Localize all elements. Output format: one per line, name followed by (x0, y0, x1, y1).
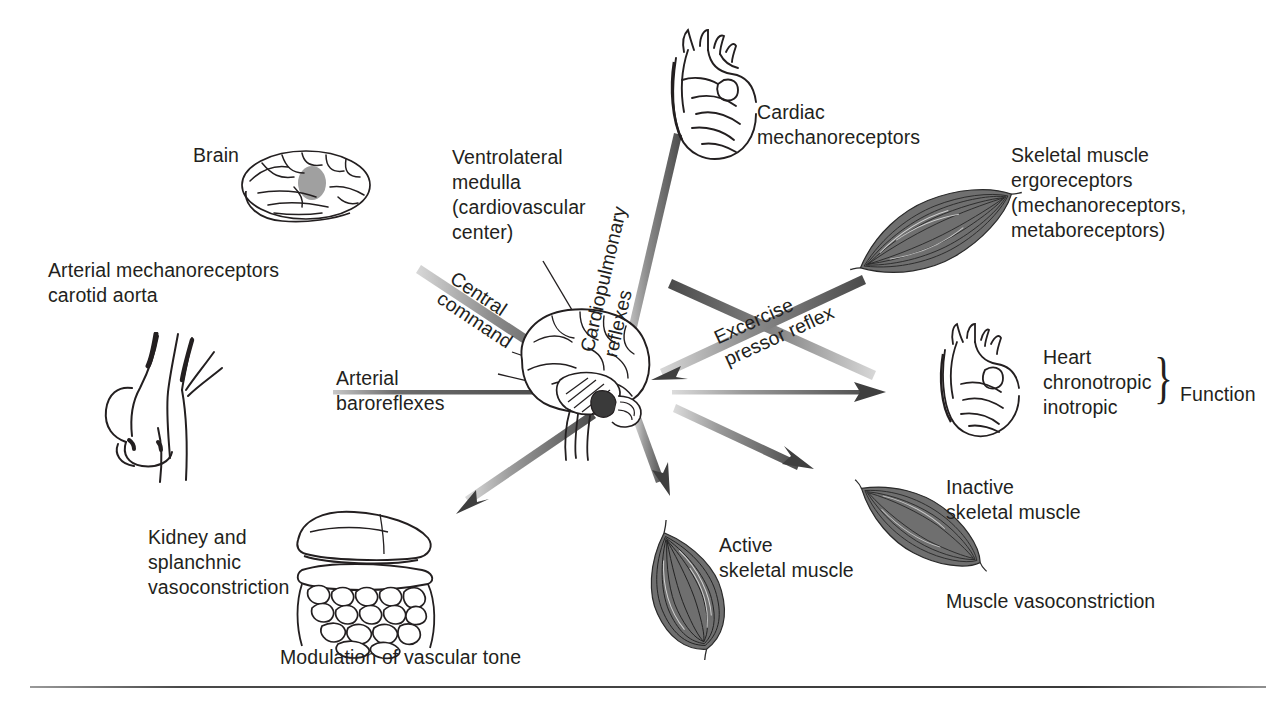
cardiovascular-control-diagram: Brain Arterial mechanoreceptors carotid … (0, 0, 1270, 704)
label-skeletal-muscle-ergoreceptors: Skeletal muscle ergoreceptors (mechanore… (1011, 143, 1186, 243)
label-cardiac-mechanoreceptors: Cardiac mechanoreceptors (757, 100, 920, 150)
heart-illustration-right (935, 322, 1031, 442)
label-function: Function (1180, 382, 1256, 407)
skeletal-muscle-illustration-ergoreceptor (846, 176, 1026, 286)
label-active-skeletal-muscle: Active skeletal muscle (719, 533, 854, 583)
label-muscle-vasoconstriction: Muscle vasoconstriction (946, 589, 1155, 614)
aortic-arch-illustration (96, 332, 266, 484)
arrow-to-heart (672, 382, 886, 402)
brain-lateral-illustration (238, 143, 378, 229)
label-inactive-skeletal-muscle: Inactive skeletal muscle (946, 475, 1081, 525)
label-arterial-mechanoreceptors: Arterial mechanoreceptors carotid aorta (48, 258, 279, 308)
bottom-divider-rule (30, 686, 1266, 688)
label-heart-function: Heart chronotropic inotropic (1043, 345, 1152, 420)
label-brain: Brain (193, 143, 239, 168)
label-kidney-splanchnic: Kidney and splanchnic vasoconstriction (148, 525, 289, 600)
curly-brace-function: } (1154, 350, 1173, 406)
kidney-splanchnic-viscera-illustration (288, 504, 452, 660)
label-arterial-baroreflexes: Arterial baroreflexes (336, 366, 445, 416)
arrow-to-inactive-muscle (673, 404, 814, 470)
label-ventrolateral-medulla: Ventrolateral medulla (cardiovascular ce… (452, 145, 586, 245)
label-modulation-of-vascular-tone: Modulation of vascular tone (280, 645, 521, 670)
